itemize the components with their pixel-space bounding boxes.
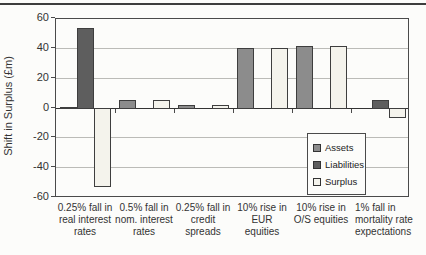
y-tick-mark--40: [51, 166, 55, 167]
y-tick-label-20: 20: [19, 71, 49, 83]
legend-item-surplus: Surplus: [313, 173, 363, 190]
legend-label-surplus: Surplus: [325, 176, 357, 187]
x-category-label-4: 10% rise in EUR equities: [228, 202, 296, 237]
category-boundary-tick-3: [233, 109, 234, 113]
legend: AssetsLiabilitiesSurplus: [307, 133, 366, 195]
y-tick-mark-60: [51, 17, 55, 18]
gridline-40: [56, 48, 408, 49]
y-tick-mark--60: [51, 196, 55, 197]
bar-assets-4: [237, 48, 254, 109]
category-boundary-tick-1: [115, 109, 116, 113]
bar-surplus-4: [271, 48, 288, 109]
x-category-label-2: 0.5% fall in nom. interest rates: [110, 202, 178, 237]
y-tick-mark-40: [51, 47, 55, 48]
category-boundary-tick-5: [351, 109, 352, 113]
legend-swatch-surplus: [313, 178, 321, 186]
legend-item-liabilities: Liabilities: [313, 156, 363, 173]
x-category-label-3: 0.25% fall in credit spreads: [169, 202, 237, 237]
y-tick-label-40: 40: [19, 41, 49, 53]
page-top-rule: [0, 3, 426, 5]
bar-assets-3: [178, 105, 195, 109]
y-tick-label-60: 60: [19, 11, 49, 23]
category-boundary-tick-4: [292, 109, 293, 113]
y-tick-mark-20: [51, 77, 55, 78]
bar-surplus-1: [94, 108, 111, 187]
legend-label-assets: Assets: [325, 142, 354, 153]
category-boundary-tick-2: [174, 109, 175, 113]
legend-item-assets: Assets: [313, 139, 363, 156]
bar-liabilities-6: [372, 100, 389, 109]
bar-liabilities-1: [77, 28, 94, 109]
y-tick-label-0: 0: [19, 101, 49, 113]
bar-surplus-3: [212, 105, 229, 109]
y-axis-title: Shift in Surplus (£m): [2, 16, 16, 196]
y-tick-label--20: -20: [19, 130, 49, 142]
bar-assets-5: [296, 46, 313, 109]
legend-label-liabilities: Liabilities: [325, 159, 364, 170]
bar-surplus-2: [153, 100, 170, 109]
x-category-label-5: 10% rise in O/S equities: [287, 202, 355, 226]
legend-swatch-liabilities: [313, 161, 321, 169]
x-category-label-6: 1% fall in mortality rate expectations: [355, 202, 423, 237]
bar-assets-1: [60, 107, 77, 109]
gridline-20: [56, 78, 408, 79]
y-tick-label--60: -60: [19, 190, 49, 202]
legend-swatch-assets: [313, 144, 321, 152]
scanned-chart-page: Shift in Surplus (£m) 6040200-20-40-60 0…: [0, 0, 426, 255]
y-tick-mark--20: [51, 136, 55, 137]
bar-surplus-6: [389, 108, 406, 118]
y-tick-mark-0: [51, 107, 55, 108]
x-category-label-1: 0.25% fall in real interest rates: [51, 202, 119, 237]
bar-assets-2: [119, 100, 136, 109]
y-tick-label--40: -40: [19, 160, 49, 172]
bar-surplus-5: [330, 46, 347, 109]
